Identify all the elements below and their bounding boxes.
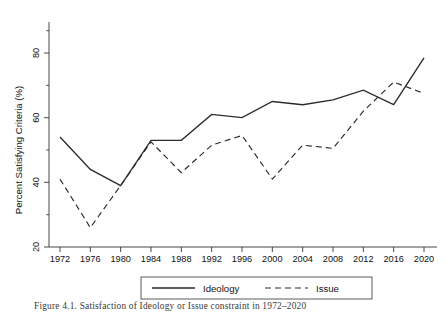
series-line-ideology xyxy=(60,58,424,186)
x-tick-label-1992: 1992 xyxy=(201,254,221,264)
y-axis-tick-labels: 20 40 60 80 xyxy=(31,48,41,252)
y-tick-label-60: 60 xyxy=(31,113,41,123)
figure-container: Percent Satisfying Criteria (%) 20 40 60… xyxy=(0,0,446,312)
x-tick-label-1980: 1980 xyxy=(110,254,130,264)
x-tick-label-2012: 2012 xyxy=(353,254,373,264)
figure-caption: Figure 4.1. Satisfaction of Ideology or … xyxy=(34,301,434,311)
y-tick-label-80: 80 xyxy=(31,48,41,58)
x-tick-label-1988: 1988 xyxy=(171,254,191,264)
x-tick-label-2000: 2000 xyxy=(262,254,282,264)
x-axis-tick-labels: 1972197619801984198819921996200020042008… xyxy=(50,254,434,264)
y-tick-label-40: 40 xyxy=(31,177,41,187)
legend-label-issue: Issue xyxy=(316,283,339,294)
x-tick-label-2016: 2016 xyxy=(383,254,403,264)
x-tick-label-1972: 1972 xyxy=(50,254,70,264)
x-tick-label-1984: 1984 xyxy=(141,254,161,264)
series-line-issue xyxy=(60,82,424,228)
line-chart: Percent Satisfying Criteria (%) 20 40 60… xyxy=(0,0,446,312)
x-tick-label-2008: 2008 xyxy=(323,254,343,264)
x-tick-label-1996: 1996 xyxy=(232,254,252,264)
x-tick-label-2020: 2020 xyxy=(414,254,434,264)
x-axis-ticks xyxy=(60,247,424,252)
y-axis-ticks xyxy=(44,31,49,247)
legend-label-ideology: Ideology xyxy=(203,283,239,294)
chart-legend: Ideology Issue xyxy=(141,277,372,299)
x-tick-label-1976: 1976 xyxy=(80,254,100,264)
y-tick-label-20: 20 xyxy=(31,242,41,252)
y-axis-title: Percent Satisfying Criteria (%) xyxy=(13,86,24,215)
axes xyxy=(49,22,437,247)
x-tick-label-2004: 2004 xyxy=(292,254,312,264)
